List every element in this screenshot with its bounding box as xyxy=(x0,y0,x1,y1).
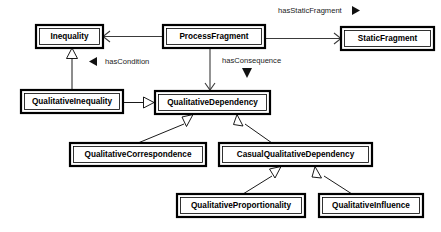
has-condition-label: hasCondition xyxy=(105,57,149,66)
class-label-staticfragment: StaticFragment xyxy=(358,34,418,43)
triangle-right-icon xyxy=(352,6,360,15)
class-label-inequality: Inequality xyxy=(50,32,89,41)
generalization-qualitativeproportionality-casualqualitativedependency[interactable] xyxy=(243,167,281,195)
generalization-arrowhead xyxy=(234,115,244,127)
class-label-qualitativeproportionality: QualitativeProportionality xyxy=(191,201,292,210)
generalization-arrowhead xyxy=(67,48,78,59)
class-label-qualitativeinfluence: QualitativeInfluence xyxy=(332,201,410,210)
class-box-qualitativeinfluence[interactable]: QualitativeInfluence xyxy=(319,194,423,217)
gen-line-qualinf-casual xyxy=(324,176,352,194)
generalization-arrowhead xyxy=(182,115,193,127)
diagram-canvas: hasCondition hasStaticFragment hasConseq… xyxy=(0,0,441,232)
class-box-qualitativedependency[interactable]: QualitativeDependency xyxy=(155,91,270,114)
class-label-qualitativedependency: QualitativeDependency xyxy=(167,98,258,107)
class-box-inequality[interactable]: Inequality xyxy=(36,25,103,48)
has-static-fragment-label: hasStaticFragment xyxy=(278,6,343,15)
gen-line-qualprop-casual xyxy=(243,176,272,194)
generalization-qualitativecorrespondence-qualitativedependency[interactable] xyxy=(138,115,193,144)
class-box-processfragment[interactable]: ProcessFragment xyxy=(163,25,265,48)
class-label-qualitativeinequality: QualitativeInequality xyxy=(32,97,113,106)
generalization-qualitativeinfluence-casualqualitativedependency[interactable] xyxy=(312,167,352,195)
triangle-down-icon xyxy=(242,68,252,78)
class-box-qualitativeproportionality[interactable]: QualitativeProportionality xyxy=(177,194,305,217)
class-label-processfragment: ProcessFragment xyxy=(179,32,248,41)
triangle-left-icon xyxy=(89,57,97,66)
class-box-staticfragment[interactable]: StaticFragment xyxy=(341,27,434,50)
association-has-consequence[interactable]: hasConsequence xyxy=(205,48,281,90)
generalization-arrowhead xyxy=(312,167,322,179)
class-label-qualitativecorrespondence: QualitativeCorrespondence xyxy=(85,150,192,159)
gen-line-casual-qualdep xyxy=(245,124,272,143)
generalization-qualitativeinequality-inequality[interactable] xyxy=(67,48,78,90)
uml-class-diagram: hasCondition hasStaticFragment hasConseq… xyxy=(0,0,441,232)
class-box-qualitativecorrespondence[interactable]: QualitativeCorrespondence xyxy=(70,143,206,166)
generalization-qualitativeinequality-qualitativedependency[interactable] xyxy=(123,97,154,108)
generalization-arrowhead xyxy=(144,97,155,108)
has-consequence-label: hasConsequence xyxy=(222,56,281,65)
generalization-casualqualitativedependency-qualitativedependency[interactable] xyxy=(234,115,273,144)
class-label-casualqualitativedependency: CasualQualitativeDependency xyxy=(237,150,355,159)
class-box-casualqualitativedependency[interactable]: CasualQualitativeDependency xyxy=(219,143,372,166)
class-box-qualitativeinequality[interactable]: QualitativeInequality xyxy=(21,90,123,113)
gen-line-qualcorr-qualdep xyxy=(138,124,184,143)
